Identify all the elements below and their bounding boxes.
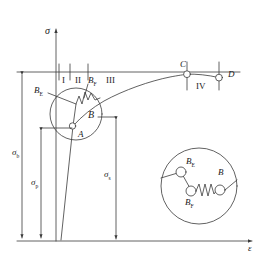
x-axis-label: ε <box>248 244 252 253</box>
inset-bf-sub: F <box>191 203 194 209</box>
node-marker-d <box>216 74 223 81</box>
point-be-sub: E <box>40 91 43 97</box>
node-marker-c <box>184 71 191 78</box>
point-b-label: B <box>88 110 94 120</box>
region-label-4: IV <box>196 82 206 91</box>
magnifier-circle-main <box>50 88 102 140</box>
sigma-s-sub: s <box>108 175 110 181</box>
inset-label-bf: BF <box>185 198 194 209</box>
inset-label-be: BE <box>186 157 195 168</box>
inset-bond-links <box>161 172 237 196</box>
inset-node-b <box>215 185 225 195</box>
region-label-2: II <box>75 76 81 85</box>
inset-node-be <box>176 167 186 177</box>
inset-be-sub: E <box>192 162 195 168</box>
point-a-label: A <box>78 130 84 139</box>
region-label-1: I <box>62 76 65 85</box>
elastic-branch <box>61 126 73 240</box>
point-d-label: D <box>228 70 235 79</box>
inset-circle <box>161 148 237 224</box>
point-be-label: BE <box>34 86 43 97</box>
sigma-b-label: σb <box>12 148 19 159</box>
figure-canvas <box>0 0 267 264</box>
sigma-s-label: σs <box>104 170 111 181</box>
point-c-label: C <box>180 60 186 69</box>
inset-node-bf <box>186 186 196 196</box>
region-label-3: III <box>106 76 115 85</box>
stress-strain-figure: σ ε σb σp σs I II III IV A B BE BF C D B… <box>0 0 267 264</box>
leader-line-be <box>48 93 76 104</box>
point-bf-sub: F <box>94 81 97 87</box>
sigma-p-label: σp <box>31 178 38 189</box>
point-bf-label: BF <box>88 76 97 87</box>
y-axis-label: σ <box>45 26 50 36</box>
inset-label-b: B <box>218 168 224 177</box>
sigma-b-sub: b <box>16 153 19 159</box>
sigma-p-sub: p <box>35 183 38 189</box>
